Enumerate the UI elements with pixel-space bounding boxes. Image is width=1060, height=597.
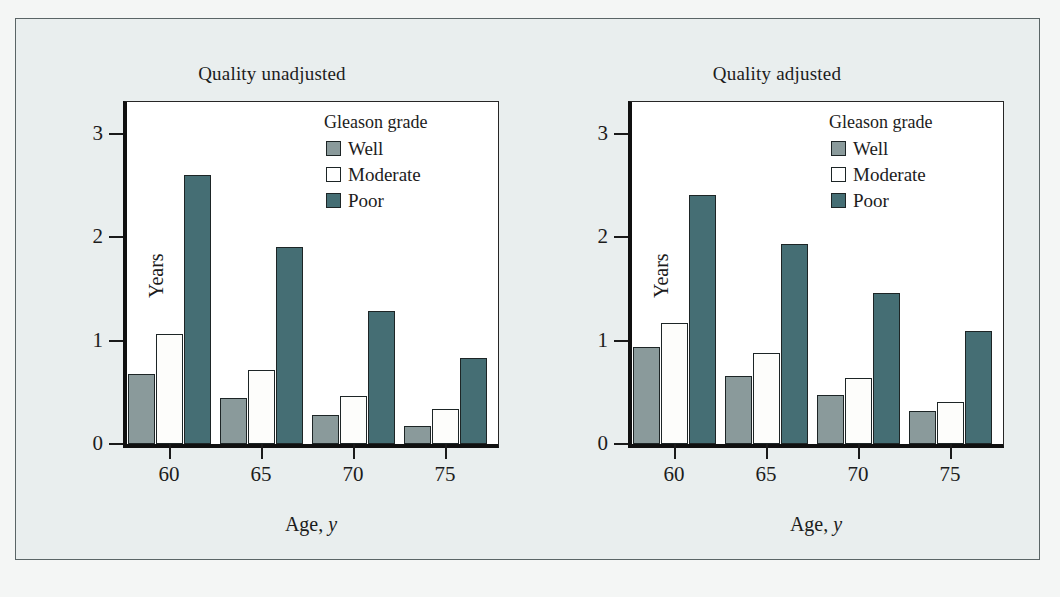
bar-moderate-age-65 bbox=[753, 353, 780, 444]
chart-panel-quality-adjusted: Quality adjusted 606570750123 Years Glea… bbox=[521, 19, 1033, 561]
bar-moderate-age-60 bbox=[156, 334, 183, 444]
x-axis-title-unit: y bbox=[833, 513, 842, 535]
legend-title: Gleason grade bbox=[825, 112, 993, 133]
figure-frame: Quality unadjusted 606570750123 Years Gl… bbox=[15, 18, 1040, 560]
x-axis-tick-label: 60 bbox=[649, 462, 699, 487]
x-axis-tick bbox=[950, 444, 952, 459]
x-axis-title-text: Age, bbox=[790, 513, 828, 535]
figure-root: Quality unadjusted 606570750123 Years Gl… bbox=[0, 0, 1060, 597]
legend-item-poor: Poor bbox=[825, 187, 993, 213]
chart-panel-quality-unadjusted: Quality unadjusted 606570750123 Years Gl… bbox=[16, 19, 528, 561]
y-axis-title: Years bbox=[650, 253, 673, 298]
x-axis-tick bbox=[169, 444, 171, 459]
legend-item-poor: Poor bbox=[320, 187, 488, 213]
x-axis-tick bbox=[353, 444, 355, 459]
legend-item-moderate: Moderate bbox=[825, 161, 993, 187]
plot-area: 606570750123 Years Gleason grade Well Mo… bbox=[628, 101, 1004, 448]
legend-item-well: Well bbox=[825, 135, 993, 161]
x-axis-title: Age, y bbox=[628, 513, 1004, 536]
x-axis-tick bbox=[858, 444, 860, 459]
bar-well-age-75 bbox=[909, 411, 936, 444]
bar-moderate-age-70 bbox=[845, 378, 872, 444]
x-axis-tick bbox=[445, 444, 447, 459]
x-axis-tick-label: 75 bbox=[925, 462, 975, 487]
legend-label-well: Well bbox=[853, 139, 888, 158]
x-axis-tick-label: 60 bbox=[144, 462, 194, 487]
x-axis-tick-label: 65 bbox=[236, 462, 286, 487]
y-axis-tick-label: 2 bbox=[580, 224, 608, 249]
panel-title: Quality adjusted bbox=[521, 63, 1033, 85]
legend-title: Gleason grade bbox=[320, 112, 488, 133]
x-axis-title-unit: y bbox=[328, 513, 337, 535]
bar-poor-age-75 bbox=[460, 358, 487, 444]
bar-moderate-age-75 bbox=[937, 402, 964, 444]
bar-poor-age-70 bbox=[368, 311, 395, 444]
x-axis-tick-label: 65 bbox=[741, 462, 791, 487]
y-axis-title: Years bbox=[145, 253, 168, 298]
bar-moderate-age-60 bbox=[661, 323, 688, 444]
y-axis-tick bbox=[614, 443, 628, 445]
y-axis-tick-label: 2 bbox=[75, 224, 103, 249]
y-axis-tick-label: 1 bbox=[75, 327, 103, 352]
y-axis-tick-label: 3 bbox=[580, 121, 608, 146]
y-axis-tick bbox=[614, 236, 628, 238]
legend-swatch-well-icon bbox=[831, 141, 846, 156]
legend-label-moderate: Moderate bbox=[853, 165, 926, 184]
legend-swatch-moderate-icon bbox=[831, 167, 846, 182]
x-axis-title-text: Age, bbox=[285, 513, 323, 535]
y-axis-tick bbox=[614, 340, 628, 342]
legend-swatch-well-icon bbox=[326, 141, 341, 156]
legend-item-well: Well bbox=[320, 135, 488, 161]
y-axis-tick-label: 1 bbox=[580, 327, 608, 352]
legend: Gleason grade Well Moderate Poor bbox=[320, 112, 488, 213]
bar-well-age-70 bbox=[817, 395, 844, 444]
bar-poor-age-65 bbox=[276, 247, 303, 444]
bar-poor-age-70 bbox=[873, 293, 900, 444]
x-axis-tick-label: 70 bbox=[833, 462, 883, 487]
legend-label-well: Well bbox=[348, 139, 383, 158]
bar-well-age-65 bbox=[725, 376, 752, 444]
bar-moderate-age-65 bbox=[248, 370, 275, 444]
bar-well-age-75 bbox=[404, 426, 431, 444]
legend-swatch-poor-icon bbox=[831, 193, 846, 208]
bar-well-age-70 bbox=[312, 415, 339, 444]
y-axis-tick bbox=[109, 340, 123, 342]
x-axis-tick bbox=[766, 444, 768, 459]
legend: Gleason grade Well Moderate Poor bbox=[825, 112, 993, 213]
x-axis-tick-label: 75 bbox=[420, 462, 470, 487]
legend-label-moderate: Moderate bbox=[348, 165, 421, 184]
x-axis-tick bbox=[674, 444, 676, 459]
legend-swatch-moderate-icon bbox=[326, 167, 341, 182]
legend-item-moderate: Moderate bbox=[320, 161, 488, 187]
legend-label-poor: Poor bbox=[348, 191, 384, 210]
x-axis-title: Age, y bbox=[123, 513, 499, 536]
x-axis-tick-label: 70 bbox=[328, 462, 378, 487]
bar-well-age-65 bbox=[220, 398, 247, 445]
y-axis-tick bbox=[109, 236, 123, 238]
y-axis-tick bbox=[614, 133, 628, 135]
bar-well-age-60 bbox=[633, 347, 660, 444]
y-axis-tick-label: 3 bbox=[75, 121, 103, 146]
bar-poor-age-75 bbox=[965, 331, 992, 444]
y-axis-tick-label: 0 bbox=[580, 431, 608, 456]
bar-moderate-age-70 bbox=[340, 396, 367, 444]
bar-poor-age-60 bbox=[184, 175, 211, 444]
legend-swatch-poor-icon bbox=[326, 193, 341, 208]
x-axis-tick bbox=[261, 444, 263, 459]
legend-label-poor: Poor bbox=[853, 191, 889, 210]
panel-title: Quality unadjusted bbox=[16, 63, 528, 85]
y-axis-tick bbox=[109, 133, 123, 135]
y-axis-tick-label: 0 bbox=[75, 431, 103, 456]
bar-well-age-60 bbox=[128, 374, 155, 444]
plot-area: 606570750123 Years Gleason grade Well Mo… bbox=[123, 101, 499, 448]
y-axis-tick bbox=[109, 443, 123, 445]
bar-poor-age-65 bbox=[781, 244, 808, 444]
bar-moderate-age-75 bbox=[432, 409, 459, 444]
bar-poor-age-60 bbox=[689, 195, 716, 444]
